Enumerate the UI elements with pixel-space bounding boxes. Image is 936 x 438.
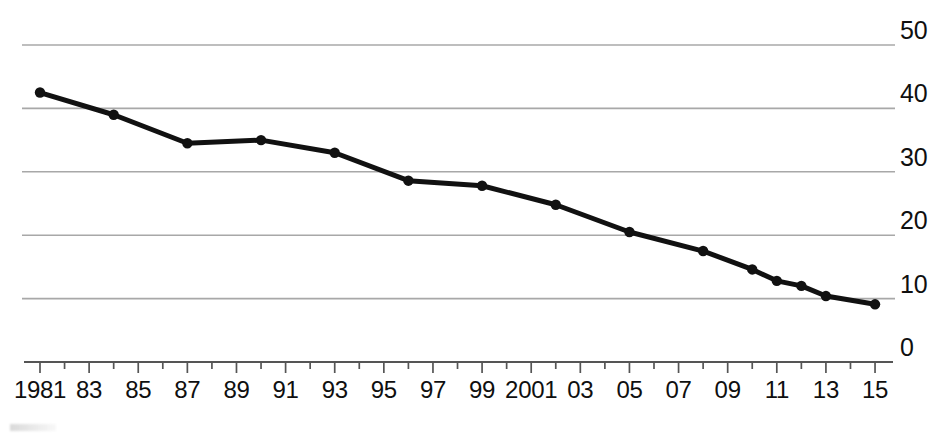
y-axis-tick-label: 30	[900, 145, 927, 170]
y-axis-tick-label: 10	[900, 272, 927, 297]
x-axis	[24, 362, 893, 373]
data-point-marker	[35, 87, 45, 97]
x-axis-tick-label: 05	[616, 378, 642, 402]
data-point-marker	[870, 299, 880, 309]
y-axis-tick-label: 0	[900, 335, 914, 360]
x-axis-tick-label: 1981	[14, 378, 66, 402]
x-axis-tick-label: 09	[715, 378, 741, 402]
x-axis-tick-label: 03	[567, 378, 593, 402]
data-point-marker	[182, 138, 192, 148]
x-axis-tick-label: 15	[862, 378, 888, 402]
y-axis-tick-label: 20	[900, 208, 927, 233]
x-axis-tick-label: 89	[223, 378, 249, 402]
x-axis-tick-label: 93	[322, 378, 348, 402]
x-axis-tick-label: 91	[273, 378, 299, 402]
gridlines	[22, 45, 895, 299]
data-point-marker	[624, 227, 634, 237]
data-point-marker	[108, 110, 118, 120]
x-axis-tick-label: 87	[174, 378, 200, 402]
line-chart: 50403020100 1981838587899193959799200103…	[0, 0, 936, 438]
x-axis-tick-label: 85	[125, 378, 151, 402]
x-axis-tick-label: 99	[469, 378, 495, 402]
y-axis-tick-label: 50	[900, 18, 927, 43]
data-point-marker	[747, 264, 757, 274]
data-point-marker	[403, 175, 413, 185]
data-series	[35, 87, 880, 309]
chart-plot-area	[0, 0, 936, 438]
data-point-marker	[551, 200, 561, 210]
data-point-marker	[772, 276, 782, 286]
data-point-marker	[256, 135, 266, 145]
x-axis-tick-label: 07	[665, 378, 691, 402]
x-axis-tick-label: 11	[765, 378, 789, 402]
data-point-marker	[698, 246, 708, 256]
x-axis-tick-label: 2001	[505, 378, 557, 402]
data-point-marker	[821, 291, 831, 301]
x-axis-tick-label: 13	[813, 378, 839, 402]
x-axis-tick-label: 83	[76, 378, 102, 402]
data-point-marker	[796, 281, 806, 291]
x-axis-tick-label: 97	[420, 378, 446, 402]
y-axis-tick-label: 40	[900, 81, 927, 106]
scan-artifact	[10, 424, 56, 431]
x-axis-tick-label: 95	[371, 378, 397, 402]
data-point-marker	[477, 181, 487, 191]
data-point-marker	[330, 148, 340, 158]
